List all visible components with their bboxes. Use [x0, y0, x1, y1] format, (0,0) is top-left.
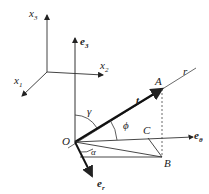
- angle-phi-label: ϕ: [123, 120, 129, 131]
- ray-r-label: r: [183, 66, 187, 77]
- axis-x1-label: x1: [14, 75, 22, 89]
- point-A-label: A: [155, 76, 162, 87]
- vector-er-label: er: [97, 178, 105, 192]
- point-O-label: O: [62, 136, 70, 147]
- vector-etheta-label: eθ: [194, 130, 203, 144]
- angle-gamma-label: γ: [87, 106, 91, 117]
- vector-e3-label: e3: [80, 36, 88, 50]
- axis-x2-label: x2: [100, 60, 108, 74]
- point-B-label: B: [164, 158, 171, 169]
- diagram: x3 x2 x1 e3 eθ er t O A B C r γ ϕ α: [0, 0, 209, 194]
- axis-x3-label: x3: [29, 8, 37, 22]
- diagram-lines: [0, 0, 209, 194]
- angle-alpha-label: α: [91, 148, 96, 157]
- vector-t-label: t: [136, 95, 139, 106]
- point-C-label: C: [143, 125, 150, 136]
